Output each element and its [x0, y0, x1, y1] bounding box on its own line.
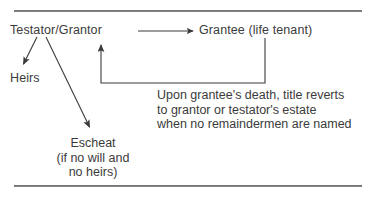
arrow-testator-to-escheat — [46, 37, 90, 127]
arrow-testator-to-heirs — [24, 37, 38, 64]
node-escheat-line-1: Escheat — [38, 136, 148, 151]
node-escheat-line-2: (if no will and — [38, 151, 148, 166]
node-escheat: Escheat (if no will and no heirs) — [38, 136, 148, 180]
reversion-note: Upon grantee's death, title reverts to g… — [157, 88, 371, 132]
node-heirs: Heirs — [10, 71, 40, 85]
arrow-reversion-loop — [101, 38, 265, 83]
node-grantee-life-tenant: Grantee (life tenant) — [199, 23, 312, 37]
node-escheat-line-3: no heirs) — [38, 165, 148, 180]
reversion-note-line-1: Upon grantee's death, title reverts — [157, 88, 371, 103]
reversion-note-line-3: when no remaindermen are named — [157, 117, 371, 132]
node-testator-grantor: Testator/Grantor — [10, 23, 102, 37]
reversion-note-line-2: to grantor or testator's estate — [157, 103, 371, 118]
diagram-canvas: Testator/Grantor Grantee (life tenant) H… — [0, 0, 373, 199]
